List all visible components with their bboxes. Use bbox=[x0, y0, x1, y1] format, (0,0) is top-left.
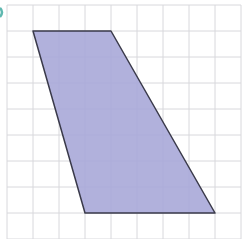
trapezoid-shape bbox=[33, 31, 215, 213]
grid-figure bbox=[0, 0, 243, 239]
corner-mark bbox=[0, 8, 2, 17]
